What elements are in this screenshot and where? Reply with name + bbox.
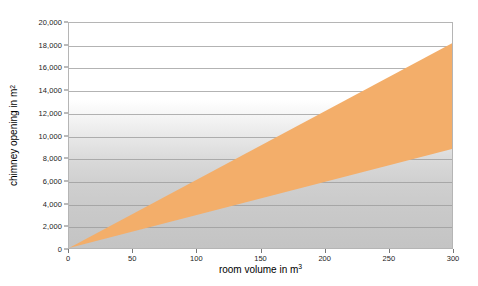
x-axis-tick-mark: [261, 249, 262, 253]
y-axis-tick-label: 6,000: [43, 176, 62, 185]
x-axis-tick-mark: [68, 249, 69, 253]
y-axis-tick-label: 12,000: [38, 108, 62, 117]
y-axis-tick-label: 8,000: [43, 154, 62, 163]
y-axis-tick-label: 14,000: [38, 86, 62, 95]
area-band-series: [69, 23, 452, 248]
x-axis-tick-mark: [132, 249, 133, 253]
y-axis-tick-label: 4,000: [43, 199, 62, 208]
x-axis-tick-mark: [389, 249, 390, 253]
x-axis-tick-label: 200: [318, 254, 331, 263]
y-axis-tick-label: 2,000: [43, 222, 62, 231]
x-axis-title-superscript: 3: [298, 263, 302, 270]
x-axis-tick-label: 50: [128, 254, 136, 263]
x-axis-title-text: room volume in m: [219, 264, 298, 275]
y-axis-tick-label: 18,000: [38, 40, 62, 49]
y-axis-tick-label: 0: [58, 245, 62, 254]
y-axis-tick-label: 20,000: [38, 18, 62, 27]
area-band-polygon: [69, 43, 452, 248]
x-axis-tick-label: 0: [66, 254, 70, 263]
y-axis-tick-label: 16,000: [38, 63, 62, 72]
x-axis-title: room volume in m3: [68, 264, 453, 275]
x-axis-tick-label: 250: [383, 254, 396, 263]
chart-container: chimney opening in m2 02,0004,0006,0008,…: [0, 0, 478, 286]
x-axis-tick-mark: [196, 249, 197, 253]
y-axis-tick-labels: 02,0004,0006,0008,00010,00012,00014,0001…: [0, 22, 62, 249]
x-axis-tick-mark: [453, 249, 454, 253]
plot-area: [68, 22, 453, 249]
x-axis-tick-mark: [325, 249, 326, 253]
x-axis-tick-label: 300: [447, 254, 460, 263]
x-axis-tick-label: 150: [254, 254, 267, 263]
y-axis-tick-label: 10,000: [38, 131, 62, 140]
x-axis-tick-label: 100: [190, 254, 203, 263]
